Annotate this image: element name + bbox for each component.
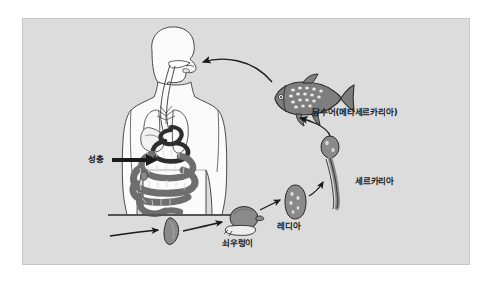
snail [224, 207, 264, 237]
label-snail: 쇠우렁이 [222, 239, 253, 248]
fish [275, 74, 354, 126]
arrow-human-to-egg [110, 230, 158, 236]
arrow-egg-to-snail [183, 222, 222, 231]
label-fish: 담수어(메타세르카리아) [312, 108, 397, 117]
label-redia: 레디아 [277, 222, 300, 231]
arrow-redia-to-cercaria [309, 182, 323, 196]
arrow-snail-to-redia [260, 200, 280, 210]
diagram-page: 성충 쇠우렁이 레디아 세르카리아 담수어(메타세르카리아) [0, 0, 493, 282]
egg [164, 218, 179, 245]
arrow-fish-to-mouth [203, 59, 272, 82]
redia [285, 185, 306, 219]
cercaria [321, 136, 339, 209]
label-cercaria: 세르카리아 [355, 177, 394, 186]
label-adult: 성충 [88, 155, 104, 164]
